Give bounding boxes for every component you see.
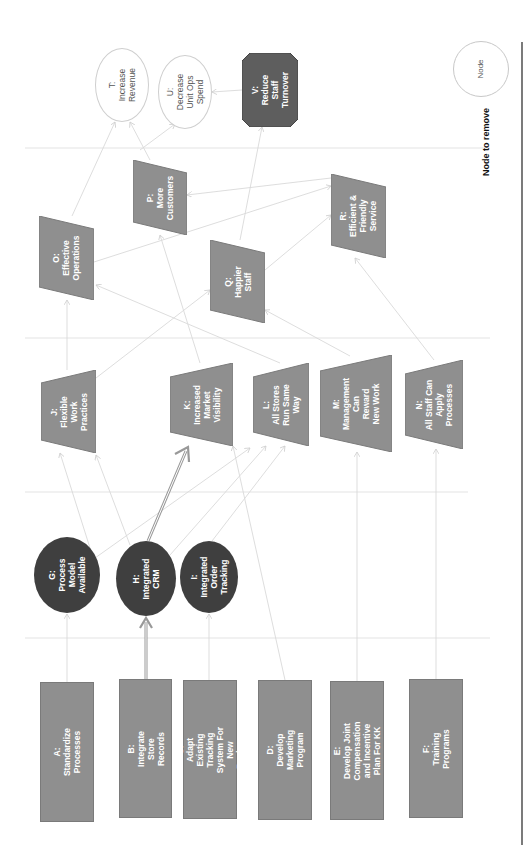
node-f-label: F: Training Programs (421, 723, 451, 775)
node-q-happier-staff[interactable]: Q: Happier Staff (210, 240, 265, 323)
node-k-label: K: Increased Market Visibility (181, 385, 221, 425)
node-c-label: C: Adapt Existing Tracking System For Ne… (175, 724, 245, 776)
node-j-flexible-work[interactable]: J: Flexible Work Practices (41, 370, 96, 453)
node-b-integrate-store-records[interactable]: B: Integrate Store Records (119, 679, 172, 818)
node-t-label: T: Increase Revenue (107, 68, 137, 102)
node-n-staff-apply-processes[interactable]: N: All Staff Can Apply Processes (405, 360, 463, 449)
edge-m-q (265, 310, 350, 356)
edge-v-u (212, 90, 242, 92)
node-h-integrated-crm[interactable]: H: Integrated CRM (116, 541, 176, 616)
edge-p-t (130, 122, 150, 160)
node-i-integrated-order-tracking[interactable]: I: Integrated Order Tracking (180, 541, 238, 613)
node-d-develop-marketing[interactable]: D: Develop Marketing Program (258, 680, 312, 820)
node-m-label: M: Management Can Reward New Work (331, 378, 381, 430)
node-n-label: N: All Staff Can Apply Processes (414, 379, 454, 430)
edge-i-l (212, 446, 285, 541)
node-c-adapt-tracking-system[interactable]: C: Adapt Existing Tracking System For Ne… (183, 680, 237, 819)
edge-g-l (95, 448, 250, 558)
node-r-label: R: Efficient & Friendly Service (339, 195, 379, 237)
node-h-label: H: Integrated CRM (131, 558, 161, 599)
edge-h-k-inner (148, 451, 186, 541)
edge-d-k (233, 446, 285, 680)
node-u-decrease-ops-spend[interactable]: U: Decrease Unit Ops Spend (158, 55, 212, 129)
node-v-reduce-turnover[interactable]: V: Reduce Staff Turnover (242, 53, 298, 127)
legend-node-label: Node (476, 59, 486, 78)
node-u-label: U: Decrease Unit Ops Spend (165, 74, 205, 110)
node-e-label: E: Develop Joint Compensation and Incent… (332, 721, 382, 780)
diagram-canvas: A: Standardize Processes B: Integrate St… (0, 0, 530, 852)
edge-o-t (72, 122, 115, 216)
edge-k-p (160, 235, 200, 363)
node-k-market-visibility[interactable]: K: Increased Market Visibility (170, 363, 233, 446)
node-e-joint-compensation[interactable]: E: Develop Joint Compensation and Incent… (330, 681, 384, 820)
node-a-standardize-processes[interactable]: A: Standardize Processes (40, 682, 94, 822)
node-m-management-reward[interactable]: M: Management Can Reward New Work (320, 355, 392, 452)
node-b-label: B: Integrate Store Records (126, 723, 166, 774)
node-r-efficient-service[interactable]: R: Efficient & Friendly Service (331, 174, 386, 258)
node-j-label: J: Flexible Work Practices (49, 393, 89, 431)
node-p-label: P: More Customers (145, 175, 175, 219)
edge-h-l (170, 446, 266, 555)
node-o-effective-operations[interactable]: O: Effective Operations (39, 216, 94, 300)
node-i-label: I: Integrated Order Tracking (189, 556, 229, 597)
legend-node-circle: Node (453, 41, 509, 97)
edge-o-u (140, 124, 175, 150)
node-o-label: O: Effective Operations (52, 236, 82, 281)
node-f-training-programs[interactable]: F: Training Programs (409, 679, 463, 818)
node-l-label: L: All Stores Run Same Way (261, 384, 301, 426)
node-l-stores-same-way[interactable]: L: All Stores Run Same Way (253, 363, 309, 446)
edge-q-r (265, 215, 331, 270)
node-p-more-customers[interactable]: P: More Customers (133, 160, 187, 235)
edge-n-r (355, 258, 434, 360)
node-a-label: A: Standardize Processes (52, 726, 82, 778)
node-g-label: G: Process Model Available (47, 556, 87, 593)
edge-h-j (96, 455, 130, 545)
node-t-increase-revenue[interactable]: T: Increase Revenue (95, 48, 149, 122)
edge-q-v (240, 127, 262, 240)
edge-r-p (187, 178, 331, 195)
node-d-label: D: Develop Marketing Program (265, 724, 305, 776)
edge-g-j (60, 453, 90, 548)
node-q-label: Q: Happier Staff (223, 266, 253, 298)
legend-caption: Node to remove (481, 106, 491, 178)
node-g-process-model[interactable]: G: Process Model Available (34, 537, 100, 613)
node-v-label: V: Reduce Staff Turnover (250, 72, 290, 108)
